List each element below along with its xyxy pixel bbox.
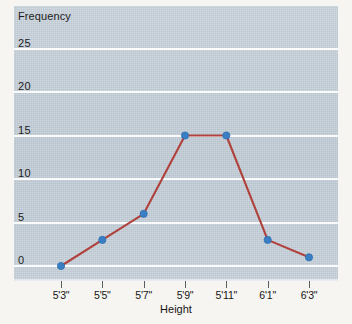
x-tick-label: 6'1" — [259, 289, 276, 301]
x-tick — [102, 281, 103, 288]
x-tick — [268, 281, 269, 288]
x-tick-label: 5'5" — [94, 289, 111, 301]
x-tick-label: 5'11" — [216, 289, 237, 301]
x-tick-label: 5'9" — [177, 289, 194, 301]
plot-area: Frequency 0510152025 — [14, 6, 338, 281]
x-tick — [144, 281, 145, 288]
chart-figure: Frequency 0510152025 5'3"5'5"5'7"5'9"5'1… — [0, 0, 352, 324]
data-series-line — [14, 6, 338, 281]
data-point-marker — [264, 236, 271, 243]
data-point-marker — [223, 132, 230, 139]
plot-bottom-edge — [14, 279, 338, 281]
x-tick — [226, 281, 227, 288]
x-tick — [61, 281, 62, 288]
x-tick — [309, 281, 310, 288]
data-point-marker — [140, 210, 147, 217]
x-tick — [185, 281, 186, 288]
data-point-marker — [99, 236, 106, 243]
x-tick-label: 6'3" — [301, 289, 318, 301]
x-tick-label: 5'7" — [135, 289, 152, 301]
series-polyline — [61, 136, 309, 267]
x-axis-title: Height — [0, 303, 352, 315]
data-point-marker — [57, 262, 64, 269]
data-point-marker — [305, 254, 312, 261]
x-tick-label: 5'3" — [53, 289, 70, 301]
data-point-marker — [181, 132, 188, 139]
